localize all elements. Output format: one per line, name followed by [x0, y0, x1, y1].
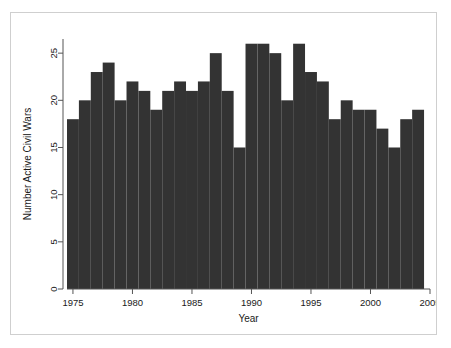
bar	[341, 100, 353, 289]
bar	[174, 81, 186, 289]
bar	[329, 119, 341, 289]
y-tick-label: 25	[48, 48, 59, 59]
bar	[293, 44, 305, 289]
bar	[376, 129, 388, 289]
y-tick-label: 0	[48, 286, 59, 291]
bar	[103, 63, 115, 289]
bar	[115, 100, 127, 289]
bar	[281, 100, 293, 289]
x-axis-ticks: 1975198019851990199520002005	[62, 289, 436, 308]
x-tick-label: 2000	[360, 297, 381, 308]
bar	[186, 91, 198, 289]
bar	[162, 91, 174, 289]
bar	[269, 53, 281, 289]
x-tick-label: 1995	[300, 297, 321, 308]
y-tick-label: 5	[48, 239, 59, 244]
bar	[246, 44, 258, 289]
bar	[79, 100, 91, 289]
bar	[127, 81, 139, 289]
bar	[412, 110, 424, 289]
figure-frame: 1975198019851990199520002005 0510152025 …	[10, 12, 437, 335]
bar	[317, 81, 329, 289]
bar	[257, 44, 269, 289]
bar	[150, 110, 162, 289]
bar-chart: 1975198019851990199520002005 0510152025 …	[11, 13, 436, 334]
x-axis-label: Year	[238, 313, 259, 324]
bar	[388, 147, 400, 289]
bar	[67, 119, 79, 289]
bar	[198, 81, 210, 289]
bar	[138, 91, 150, 289]
y-tick-label: 20	[48, 95, 59, 106]
bar	[305, 72, 317, 289]
bar	[353, 110, 365, 289]
x-tick-label: 1975	[62, 297, 83, 308]
x-tick-label: 1985	[181, 297, 202, 308]
x-tick-label: 1980	[122, 297, 143, 308]
y-tick-label: 15	[48, 142, 59, 153]
x-tick-label: 2005	[419, 297, 436, 308]
bar	[222, 91, 234, 289]
bar	[91, 72, 103, 289]
bar	[210, 53, 222, 289]
x-tick-label: 1990	[241, 297, 262, 308]
bar	[365, 110, 377, 289]
bar	[400, 119, 412, 289]
y-tick-label: 10	[48, 189, 59, 200]
bar	[234, 147, 246, 289]
figure-container: 1975198019851990199520002005 0510152025 …	[0, 0, 451, 348]
y-axis-label: Number Active Civil Wars	[22, 108, 33, 220]
y-axis-ticks: 0510152025	[48, 48, 63, 292]
bars-group	[67, 44, 424, 289]
